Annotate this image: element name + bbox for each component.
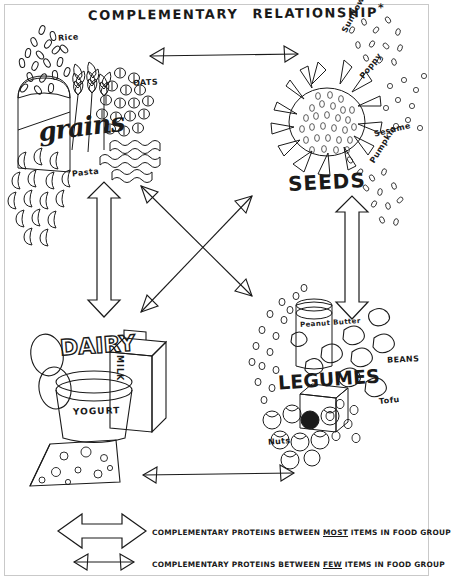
- pasta-noodle-icon: [100, 141, 160, 183]
- title-part-one: COMPLEMENTARY: [88, 6, 239, 23]
- legend-few-pre: COMPLEMENTARY PROTEINS BETWEEN: [152, 560, 323, 569]
- item-label-oats: OATS: [133, 77, 158, 87]
- group-heading-dairy: DAIRY: [59, 330, 136, 360]
- legend-most-emphasis: MOST: [323, 528, 348, 537]
- item-label-yogurt: YOGURT: [73, 405, 121, 417]
- legend-most-post: ITEMS IN FOOD GROUP: [348, 528, 451, 537]
- legend-few-emphasis: FEW: [323, 560, 342, 569]
- arrow-dairy-seeds: [141, 196, 252, 312]
- cheese-wedge-icon: [30, 440, 120, 486]
- arrow-dairy-legumes: [143, 465, 294, 483]
- item-label-rice: Rice: [58, 32, 79, 42]
- item-label-beans: BEANS: [387, 354, 420, 365]
- legend-thin-double-arrow: [74, 554, 134, 570]
- legend-thick-double-arrow: [58, 514, 146, 548]
- arrow-grains-legumes: [141, 186, 252, 296]
- macaroni-icon: [8, 148, 70, 246]
- legend-few-post: ITEMS IN FOOD GROUP: [342, 560, 445, 569]
- arrow-grains-dairy: [88, 182, 120, 317]
- seed-scatter-icon: [346, 16, 426, 226]
- legend-row-few-text: COMPLEMENTARY PROTEINS BETWEEN FEW ITEMS…: [152, 560, 445, 569]
- item-label-nuts: Nuts: [268, 436, 291, 447]
- arrow-grains-seeds: [150, 46, 298, 64]
- page-title: COMPLEMENTARYRELATIONSHIP*: [88, 1, 386, 22]
- item-label-milk: MILK: [115, 355, 124, 381]
- title-asterisk: *: [378, 1, 385, 14]
- legend-row-most-text: COMPLEMENTARY PROTEINS BETWEEN MOST ITEM…: [152, 528, 451, 537]
- arrow-seeds-legumes: [336, 196, 368, 319]
- legend-most-pre: COMPLEMENTARY PROTEINS BETWEEN: [152, 528, 323, 537]
- group-heading-seeds: SEEDS: [287, 168, 366, 196]
